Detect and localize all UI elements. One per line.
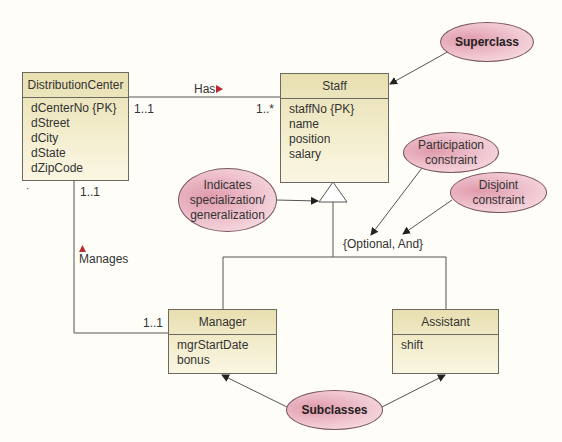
attribute: name bbox=[289, 117, 388, 132]
attribute: dState bbox=[31, 146, 128, 161]
manages-label: Manages bbox=[79, 252, 128, 266]
attribute: staffNo {PK} bbox=[289, 102, 388, 117]
class-attributes: dCenterNo {PK} dStreet dCity dState dZip… bbox=[23, 98, 128, 176]
annotation-text: Disjoint bbox=[479, 178, 518, 193]
attribute: dStreet bbox=[31, 116, 128, 131]
class-attributes: mgrStartDate bonus bbox=[169, 335, 276, 368]
subclasses-annotation: Subclasses bbox=[286, 390, 383, 430]
attribute: mgrStartDate bbox=[177, 338, 276, 353]
diagram-connectors bbox=[0, 0, 562, 442]
class-staff: Staff staffNo {PK} name position salary bbox=[280, 73, 389, 183]
constraint-label: {Optional, And} bbox=[343, 237, 423, 251]
class-assistant: Assistant shift bbox=[392, 309, 499, 374]
manages-direction-icon bbox=[79, 245, 86, 252]
annotation-text: Superclass bbox=[455, 35, 519, 50]
superclass-annotation: Superclass bbox=[440, 22, 534, 62]
attribute: salary bbox=[289, 147, 388, 162]
dot-mark: · bbox=[26, 183, 29, 194]
annotation-text: constraint bbox=[425, 153, 477, 168]
annotation-text: generalization bbox=[190, 208, 265, 223]
class-manager: Manager mgrStartDate bonus bbox=[168, 309, 277, 374]
manages-bottom-multiplicity: 1..1 bbox=[143, 316, 163, 330]
annotation-text: Participation bbox=[418, 138, 484, 153]
class-name: Staff bbox=[281, 74, 388, 99]
manages-top-multiplicity: 1..1 bbox=[80, 185, 100, 199]
class-attributes: staffNo {PK} name position salary bbox=[281, 99, 388, 162]
attribute: position bbox=[289, 132, 388, 147]
annotation-text: Subclasses bbox=[301, 403, 367, 418]
has-label: Has bbox=[194, 82, 215, 96]
annotation-text: constraint bbox=[472, 193, 524, 208]
annotation-text: specialization/ bbox=[190, 193, 265, 208]
has-left-multiplicity: 1..1 bbox=[134, 102, 154, 116]
has-direction-icon bbox=[216, 85, 223, 93]
attribute: shift bbox=[401, 338, 498, 353]
generalization-branch-line bbox=[223, 257, 446, 309]
class-name: Assistant bbox=[393, 310, 498, 335]
class-name: DistributionCenter bbox=[23, 73, 128, 98]
attribute: dZipCode bbox=[31, 161, 128, 176]
attribute: dCenterNo {PK} bbox=[31, 101, 128, 116]
generalization-triangle-icon bbox=[319, 182, 347, 202]
class-attributes: shift bbox=[393, 335, 498, 353]
annotation-text: Indicates bbox=[203, 178, 251, 193]
class-name: Manager bbox=[169, 310, 276, 335]
attribute: dCity bbox=[31, 131, 128, 146]
disjoint-constraint-annotation: Disjoint constraint bbox=[450, 172, 547, 213]
class-distribution-center: DistributionCenter dCenterNo {PK} dStree… bbox=[22, 72, 129, 181]
attribute: bonus bbox=[177, 353, 276, 368]
participation-constraint-annotation: Participation constraint bbox=[403, 132, 499, 173]
has-right-multiplicity: 1..* bbox=[256, 102, 274, 116]
specialization-annotation: Indicates specialization/ generalization bbox=[178, 168, 277, 232]
